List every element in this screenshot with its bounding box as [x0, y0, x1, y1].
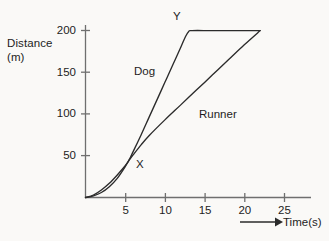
x-tick-label-25: 25	[270, 204, 300, 217]
x-tick-label-10: 10	[150, 204, 180, 217]
x-tick-label-15: 15	[190, 204, 220, 217]
y-tick-label-100: 100	[42, 107, 76, 120]
x-tick-label-5: 5	[111, 204, 141, 217]
series-label-dog: Dog	[134, 65, 155, 78]
y-tick-label-200: 200	[42, 24, 76, 37]
y-axis-title: Distance	[7, 37, 53, 50]
annotation-point-x: X	[136, 158, 144, 171]
y-tick-label-50: 50	[42, 149, 76, 162]
time-axis-arrow-icon	[240, 218, 283, 227]
y-tick-label-150: 150	[42, 66, 76, 79]
x-axis-title: Time(s)	[283, 216, 322, 229]
distance-time-chart: Distance (m) 200 150 100 50 5 10 15 20 2…	[0, 0, 329, 241]
y-axis-units: (m)	[7, 51, 25, 64]
series-label-runner: Runner	[199, 108, 237, 121]
annotation-point-y: Y	[173, 10, 181, 23]
x-tick-label-20: 20	[230, 204, 260, 217]
